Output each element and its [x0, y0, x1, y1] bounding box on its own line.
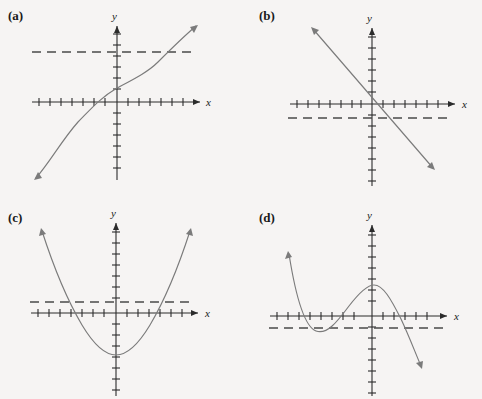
panel-d-x-axis-label: x [453, 310, 459, 322]
panel-c-graph: x y [0, 200, 241, 399]
panel-d-x-axis-arrow [440, 313, 447, 319]
panel-a-graph: x y [0, 0, 241, 199]
figure-container: (a) [0, 0, 482, 399]
panel-a-curve-arrow-right [190, 25, 198, 33]
panel-d-curve-arrow-upper-left [285, 251, 292, 259]
panel-b-x-axis-label: x [461, 98, 467, 110]
panel-c: (c) [0, 200, 241, 399]
panel-a: (a) [0, 0, 241, 199]
panel-b-y-axis-label: y [366, 12, 372, 24]
panel-d-y-axis-label: y [366, 209, 372, 221]
panel-b-y-axis-arrow [369, 28, 375, 35]
panel-d-graph: x y [241, 200, 482, 399]
panel-d: (d) [241, 200, 482, 399]
panel-a-y-axis-arrow [114, 26, 120, 33]
panel-c-y-axis-label: y [110, 207, 116, 219]
panel-c-x-axis-label: x [204, 307, 210, 319]
panel-c-curve-arrow-right [186, 228, 193, 236]
panel-a-x-axis-label: x [205, 96, 211, 108]
panel-a-curve-arrow-left [34, 172, 42, 180]
panel-a-x-axis-arrow [193, 99, 200, 105]
panel-b: (b) [241, 0, 482, 199]
panel-d-curve-arrow-lower-right [416, 361, 423, 369]
panel-b-graph: x y [241, 0, 482, 199]
panel-c-x-axis-arrow [191, 310, 198, 316]
panel-d-y-axis-arrow [369, 225, 375, 232]
panel-a-y-axis-label: y [111, 10, 117, 22]
panel-b-x-axis-arrow [448, 101, 455, 107]
panel-c-y-axis-arrow [113, 223, 119, 230]
panel-d-curve [289, 254, 421, 366]
panel-c-curve-arrow-left [39, 228, 46, 236]
panel-b-line [313, 29, 433, 168]
